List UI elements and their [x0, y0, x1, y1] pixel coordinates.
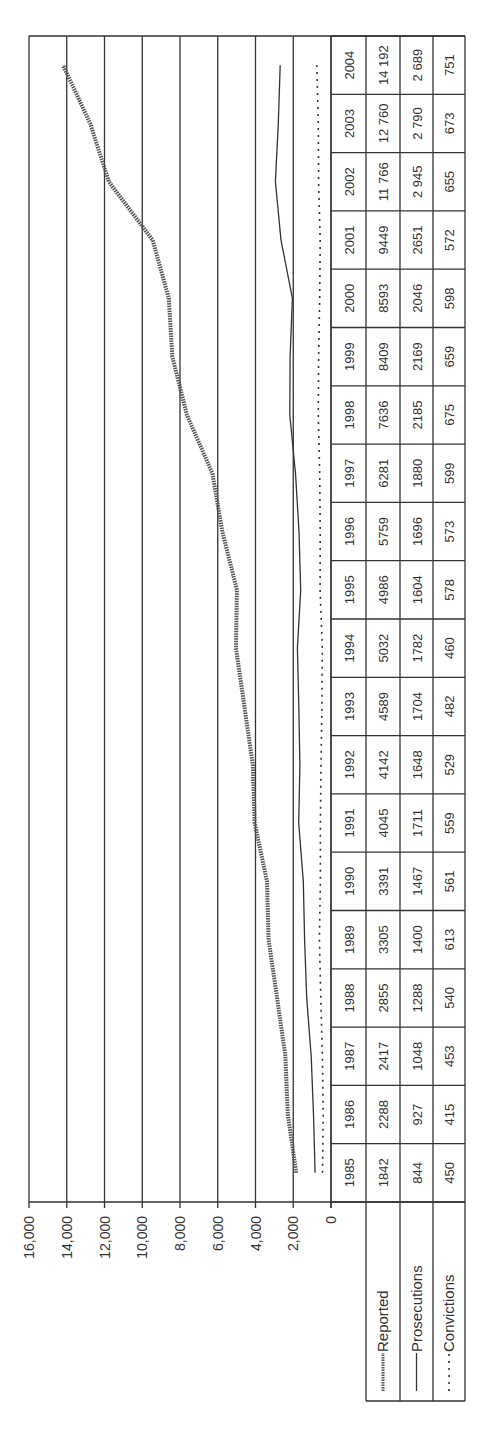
table-value-cell: 659: [442, 346, 457, 368]
table-value-cell: 4986: [376, 575, 391, 604]
table-year-cell: 1998: [342, 400, 357, 429]
table-value-cell: 8409: [376, 342, 391, 371]
axis-tick-label: 8,000: [172, 1216, 188, 1251]
axis-tick-label: 2,000: [285, 1216, 301, 1251]
table-year-cell: 1993: [342, 692, 357, 721]
axis-tick-label: 0: [323, 1216, 339, 1224]
table-value-cell: 598: [442, 287, 457, 309]
table-year-cell: 1987: [342, 1042, 357, 1071]
value-axis-labels: 02,0004,0006,0008,00010,00012,00014,0001…: [21, 1216, 339, 1259]
table-year-cell: 1986: [342, 1100, 357, 1129]
table-value-cell: 4045: [376, 809, 391, 838]
table-value-cell: 2651: [410, 226, 425, 255]
table-year-cell: 1990: [342, 867, 357, 896]
table-value-cell: 561: [442, 870, 457, 892]
table-value-cell: 1400: [410, 925, 425, 954]
axis-tick-label: 10,000: [134, 1216, 150, 1259]
table-value-cell: 453: [442, 1045, 457, 1067]
table-value-cell: 5759: [376, 517, 391, 546]
table-value-cell: 2169: [410, 342, 425, 371]
table-value-cell: 2417: [376, 1042, 391, 1071]
table-value-cell: 1467: [410, 867, 425, 896]
table-value-cell: 5032: [376, 634, 391, 663]
table-value-cell: 460: [442, 637, 457, 659]
table-value-cell: 529: [442, 754, 457, 776]
table-year-cell: 2001: [342, 226, 357, 255]
table-value-cell: 573: [442, 521, 457, 543]
table-value-cell: 8593: [376, 284, 391, 313]
table-year-cell: 1997: [342, 459, 357, 488]
table-value-cell: 2 790: [410, 107, 425, 140]
series-line-prosecutions: [275, 65, 315, 1173]
table-value-cell: 2046: [410, 284, 425, 313]
table-value-cell: 613: [442, 929, 457, 951]
series-line-convictions: [317, 65, 323, 1173]
table-value-cell: 7636: [376, 400, 391, 429]
table-value-cell: 3305: [376, 925, 391, 954]
table-year-cell: 1988: [342, 983, 357, 1012]
table-value-cell: 751: [442, 54, 457, 76]
table-value-cell: 1711: [410, 809, 425, 837]
table-year-cell: 1989: [342, 925, 357, 954]
table-value-cell: 1782: [410, 634, 425, 663]
legend: ReportedProsecutionsConvictions: [374, 1265, 457, 1391]
table-year-cell: 2000: [342, 284, 357, 313]
table-value-cell: 1648: [410, 750, 425, 779]
table-value-cell: 415: [442, 1104, 457, 1126]
axis-tick-label: 6,000: [210, 1216, 226, 1251]
table-value-cell: 4589: [376, 692, 391, 721]
table-year-cell: 1994: [342, 634, 357, 663]
value-axis-ticks: [29, 1202, 331, 1208]
table-value-cell: 1604: [410, 575, 425, 604]
table-value-cell: 3391: [376, 867, 391, 896]
table-year-cell: 1995: [342, 575, 357, 604]
table-year-cell: 1992: [342, 750, 357, 779]
table-value-cell: 1880: [410, 459, 425, 488]
table-value-cell: 2 945: [410, 165, 425, 198]
table-value-cell: 599: [442, 462, 457, 484]
table-value-cell: 572: [442, 229, 457, 251]
table-value-cell: 540: [442, 987, 457, 1009]
series-lines: [63, 65, 323, 1173]
table-value-cell: 1842: [376, 1158, 391, 1187]
table-value-cell: 6281: [376, 459, 391, 488]
line-chart-with-data-table: 02,0004,0006,0008,00010,00012,00014,0001…: [0, 0, 489, 1456]
table-value-cell: 655: [442, 171, 457, 193]
table-value-cell: 2 689: [410, 49, 425, 82]
axis-tick-label: 4,000: [248, 1216, 264, 1251]
table-year-cell: 2002: [342, 167, 357, 196]
table-year-cell: 1991: [342, 809, 357, 838]
legend-label-reported: Reported: [374, 1290, 391, 1352]
table-value-cell: 675: [442, 404, 457, 426]
gridlines: [29, 36, 293, 1202]
table-value-cell: 578: [442, 579, 457, 601]
table-value-cell: 2855: [376, 983, 391, 1012]
table-year-cell: 1999: [342, 342, 357, 371]
legend-label-prosecutions: Prosecutions: [408, 1265, 425, 1352]
table-value-cell: 450: [442, 1162, 457, 1184]
table-value-cell: 4142: [376, 750, 391, 779]
table-year-cell: 2003: [342, 109, 357, 138]
table-value-cell: 1696: [410, 517, 425, 546]
legend-label-convictions: Convictions: [440, 1274, 457, 1352]
table-value-cell: 1048: [410, 1042, 425, 1071]
axis-tick-label: 16,000: [21, 1216, 37, 1259]
table-value-cell: 844: [410, 1162, 425, 1184]
table-value-cell: 9449: [376, 226, 391, 255]
data-table: 1985198619871988198919901991199219931994…: [331, 36, 465, 1401]
table-value-cell: 482: [442, 696, 457, 718]
table-value-cell: 673: [442, 113, 457, 135]
axis-tick-label: 14,000: [59, 1216, 75, 1259]
table-value-cell: 1704: [410, 692, 425, 721]
table-value-cell: 1288: [410, 983, 425, 1012]
table-year-cell: 1985: [342, 1158, 357, 1187]
table-year-cell: 2004: [342, 51, 357, 80]
table-value-cell: 927: [410, 1104, 425, 1126]
table-value-cell: 12 760: [376, 104, 391, 144]
table-value-cell: 14 192: [376, 45, 391, 85]
table-value-cell: 11 766: [376, 162, 391, 201]
table-value-cell: 559: [442, 812, 457, 834]
table-year-cell: 1996: [342, 517, 357, 546]
table-value-cell: 2185: [410, 400, 425, 429]
axis-tick-label: 12,000: [97, 1216, 113, 1259]
